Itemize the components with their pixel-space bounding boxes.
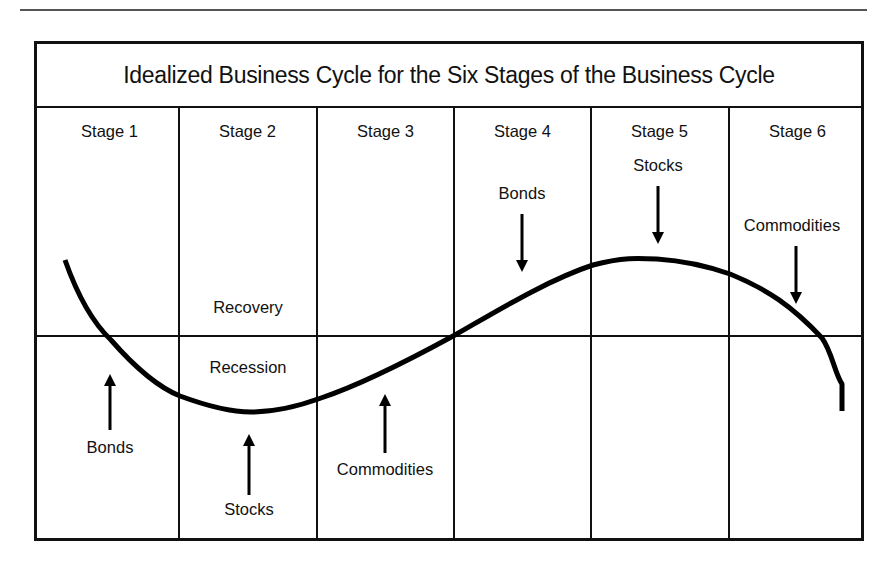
business-cycle-curve	[65, 258, 842, 412]
business-cycle-diagram: Idealized Business Cycle for the Six Sta…	[34, 41, 864, 541]
cycle-curve-layer	[37, 44, 861, 538]
top-rule	[20, 9, 867, 11]
